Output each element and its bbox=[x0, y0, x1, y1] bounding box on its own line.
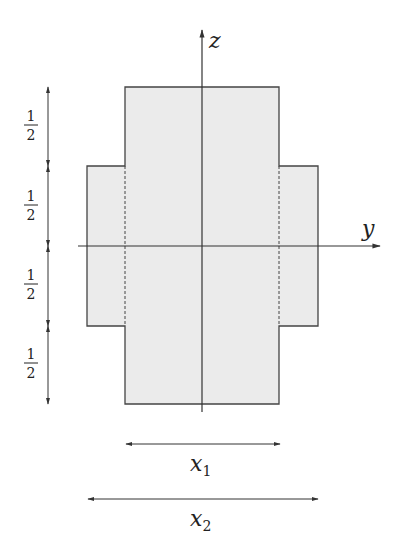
x1-label: x1 bbox=[190, 451, 211, 479]
svg-text:2: 2 bbox=[27, 207, 36, 223]
fraction-2: 1 2 bbox=[24, 188, 38, 223]
fraction-4: 1 2 bbox=[24, 346, 38, 381]
fraction-3: 1 2 bbox=[24, 267, 38, 302]
fraction-1: 1 2 bbox=[24, 108, 38, 143]
svg-text:1: 1 bbox=[27, 108, 36, 124]
svg-text:2: 2 bbox=[27, 365, 36, 381]
svg-text:1: 1 bbox=[27, 346, 36, 362]
x2-label: x2 bbox=[190, 506, 211, 534]
cross-section-diagram: y z 1 2 1 2 1 2 1 2 x1 x2 bbox=[0, 0, 399, 544]
svg-text:1: 1 bbox=[27, 188, 36, 204]
y-axis-label: y bbox=[361, 216, 375, 241]
svg-text:1: 1 bbox=[27, 267, 36, 283]
svg-text:2: 2 bbox=[27, 127, 36, 143]
svg-text:2: 2 bbox=[27, 286, 36, 302]
z-axis-label: z bbox=[208, 28, 221, 53]
